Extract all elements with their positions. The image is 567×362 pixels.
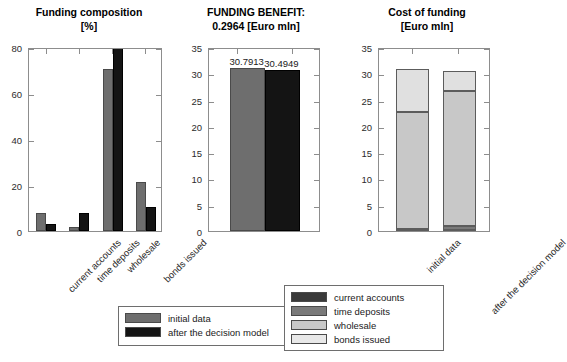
y-tick-mark bbox=[209, 102, 214, 103]
chart3-plot-area bbox=[378, 48, 490, 232]
y-tick-mark bbox=[156, 95, 161, 96]
y-tick-label: 0 bbox=[367, 227, 372, 238]
stacked-segment-time-deposits bbox=[443, 226, 477, 230]
y-tick-mark bbox=[379, 154, 384, 155]
legend-label: time deposits bbox=[334, 306, 390, 317]
chart3-subtitle: [Euro mln] bbox=[352, 20, 502, 33]
bar-value-label: 30.7913 bbox=[229, 56, 263, 67]
legend-scenarios: initial data after the decision model bbox=[118, 306, 286, 346]
y-tick-label: 10 bbox=[191, 174, 202, 185]
y-tick-mark bbox=[379, 102, 384, 103]
x-tick-mark bbox=[292, 49, 293, 54]
legend-label: after the decision model bbox=[168, 327, 269, 338]
chart1-plot-area bbox=[28, 48, 162, 232]
bar-initial-data bbox=[69, 227, 79, 231]
x-tick-mark bbox=[412, 49, 413, 54]
y-tick-mark bbox=[29, 49, 34, 50]
legend-item: bonds issued bbox=[291, 332, 437, 346]
bar-initial-data bbox=[103, 69, 113, 231]
y-tick-label: 30 bbox=[361, 69, 372, 80]
legend-swatch-initial-data bbox=[125, 313, 161, 323]
y-tick-label: 15 bbox=[361, 148, 372, 159]
legend-label: current accounts bbox=[334, 292, 404, 303]
bar-initial-data bbox=[136, 182, 146, 231]
x-axis-category-label: after the decision model bbox=[488, 237, 567, 316]
y-tick-mark bbox=[314, 207, 319, 208]
y-tick-mark bbox=[484, 128, 489, 129]
bar-initial-data bbox=[230, 68, 265, 231]
y-tick-mark bbox=[379, 180, 384, 181]
y-tick-mark bbox=[314, 75, 319, 76]
y-tick-mark bbox=[314, 102, 319, 103]
legend-item: time deposits bbox=[291, 304, 437, 318]
y-tick-label: 5 bbox=[197, 200, 202, 211]
stacked-segment-bonds-issued bbox=[396, 69, 430, 112]
y-tick-mark bbox=[379, 207, 384, 208]
legend-swatch-bonds-issued bbox=[291, 334, 327, 344]
y-tick-label: 80 bbox=[11, 43, 22, 54]
y-tick-mark bbox=[209, 154, 214, 155]
y-tick-mark bbox=[484, 75, 489, 76]
y-tick-mark bbox=[314, 180, 319, 181]
x-axis-category-label: initial data bbox=[424, 237, 462, 275]
y-tick-mark bbox=[209, 207, 214, 208]
chart2-plot-area bbox=[208, 48, 320, 232]
y-tick-mark bbox=[314, 49, 319, 50]
legend-swatch-current-accounts bbox=[291, 292, 327, 302]
y-tick-label: 0 bbox=[197, 227, 202, 238]
y-tick-label: 20 bbox=[191, 121, 202, 132]
y-tick-label: 20 bbox=[11, 181, 22, 192]
y-tick-mark bbox=[484, 207, 489, 208]
chart2-subtitle: 0.2964 [Euro mln] bbox=[178, 20, 334, 33]
x-tick-mark bbox=[79, 49, 80, 54]
bar-after-decision-model bbox=[46, 224, 56, 231]
legend-item: initial data bbox=[125, 311, 279, 325]
bar-after-decision-model bbox=[79, 213, 89, 231]
legend-item: wholesale bbox=[291, 318, 437, 332]
x-tick-mark bbox=[458, 49, 459, 54]
y-tick-label: 40 bbox=[11, 135, 22, 146]
y-tick-mark bbox=[209, 180, 214, 181]
x-tick-mark bbox=[46, 49, 47, 54]
chart2-title: FUNDING BENEFIT: bbox=[178, 6, 334, 19]
y-tick-label: 35 bbox=[361, 43, 372, 54]
stacked-segment-wholesale bbox=[443, 91, 477, 227]
y-tick-mark bbox=[379, 128, 384, 129]
y-tick-mark bbox=[209, 128, 214, 129]
bar-value-label: 30.4949 bbox=[264, 58, 298, 69]
bar-initial-data bbox=[36, 213, 46, 231]
x-tick-mark bbox=[237, 49, 238, 54]
y-tick-mark bbox=[484, 102, 489, 103]
y-tick-mark bbox=[209, 75, 214, 76]
bar-after-decision-model bbox=[113, 48, 123, 231]
y-tick-mark bbox=[484, 154, 489, 155]
legend-swatch-time-deposits bbox=[291, 306, 327, 316]
y-tick-label: 5 bbox=[367, 200, 372, 211]
legend-label: bonds issued bbox=[334, 334, 390, 345]
y-tick-mark bbox=[29, 95, 34, 96]
y-tick-mark bbox=[156, 141, 161, 142]
bar-after-decision-model bbox=[265, 70, 300, 231]
y-tick-mark bbox=[209, 49, 214, 50]
bar-after-decision-model bbox=[146, 207, 156, 231]
chart3-title: Cost of funding bbox=[352, 6, 502, 19]
y-tick-mark bbox=[156, 187, 161, 188]
legend-item: after the decision model bbox=[125, 325, 279, 339]
y-tick-mark bbox=[484, 49, 489, 50]
x-axis-category-label: bonds issued bbox=[162, 237, 209, 284]
legend-swatch-wholesale bbox=[291, 320, 327, 330]
legend-swatch-after-decision-model bbox=[125, 327, 161, 337]
chart1-title: Funding composition bbox=[14, 6, 164, 19]
stacked-segment-bonds-issued bbox=[443, 71, 477, 91]
y-tick-label: 10 bbox=[361, 174, 372, 185]
y-tick-label: 35 bbox=[191, 43, 202, 54]
legend-item: current accounts bbox=[291, 290, 437, 304]
y-tick-mark bbox=[314, 154, 319, 155]
legend-label: initial data bbox=[168, 313, 211, 324]
y-tick-mark bbox=[379, 49, 384, 50]
y-tick-mark bbox=[484, 180, 489, 181]
y-tick-label: 20 bbox=[361, 121, 372, 132]
y-tick-mark bbox=[379, 75, 384, 76]
y-tick-mark bbox=[29, 187, 34, 188]
legend-label: wholesale bbox=[334, 320, 376, 331]
